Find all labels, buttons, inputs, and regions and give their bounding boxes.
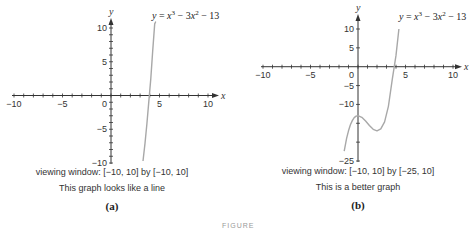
- y-axis-arrow-icon: [109, 18, 114, 25]
- graph-panel-a: xy−10−50510−10−5510y = x3 − 3x2 − 13: [6, 6, 226, 168]
- x-tick-label: 5: [403, 70, 408, 80]
- y-tick-label: −5: [344, 81, 354, 91]
- figure-canvas: xy−10−50510−10−5510y = x3 − 3x2 − 13 xy−…: [0, 0, 474, 228]
- panel-label-a: (a): [106, 200, 119, 212]
- equation-label: y = x3 − 3x2 − 13: [398, 10, 466, 22]
- viewing-window-caption-b: viewing window: [−10, 10] by [−25, 10]: [282, 166, 435, 176]
- graph-panel-b: xy−10−50510−25−10−5510y = x3 − 3x2 − 13: [255, 2, 469, 166]
- y-axis-arrow-icon: [356, 14, 361, 21]
- y-tick-label: 5: [102, 57, 107, 67]
- y-tick-label: 10: [344, 24, 354, 34]
- y-tick-label: −5: [97, 124, 107, 134]
- x-tick-label: 10: [448, 70, 458, 80]
- x-tick-label: −5: [305, 70, 315, 80]
- equation-label: y = x3 − 3x2 − 13: [151, 9, 219, 21]
- x-tick-label: −10: [255, 70, 270, 80]
- x-tick-label: 10: [203, 99, 213, 109]
- graph-comment-a: This graph looks like a line: [59, 183, 165, 193]
- x-axis-arrow-icon: [455, 64, 462, 69]
- y-tick-label: 5: [349, 43, 354, 53]
- x-tick-label: 5: [157, 99, 162, 109]
- x-axis-arrow-icon: [212, 93, 219, 98]
- x-axis-label: x: [463, 61, 469, 72]
- y-tick-label: −25: [339, 156, 354, 166]
- x-tick-label: 0: [102, 99, 107, 109]
- viewing-window-caption-a: viewing window: [−10, 10] by [−10, 10]: [36, 167, 189, 177]
- x-axis-label: x: [220, 90, 226, 101]
- x-tick-label: −5: [57, 99, 67, 109]
- x-tick-label: −10: [6, 99, 21, 109]
- figure-label: FIGURE: [222, 222, 254, 228]
- y-axis-label: y: [355, 2, 361, 13]
- panel-label-b: (b): [351, 199, 364, 211]
- x-tick-label: 0: [349, 70, 354, 80]
- y-tick-label: 10: [97, 23, 107, 33]
- function-curve: [143, 22, 156, 161]
- y-tick-label: −10: [339, 99, 354, 109]
- graph-comment-b: This is a better graph: [316, 182, 401, 192]
- y-axis-label: y: [108, 6, 114, 17]
